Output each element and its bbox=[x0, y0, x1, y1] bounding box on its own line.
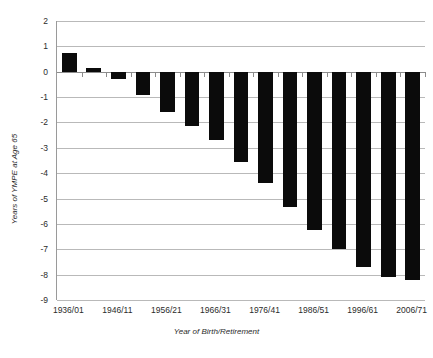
y-tick-label: -2 bbox=[40, 117, 48, 127]
x-tick-label: 1986/51 bbox=[298, 305, 329, 315]
bar bbox=[86, 68, 101, 72]
x-axis-title: Year of Birth/Retirement bbox=[0, 327, 433, 336]
x-axis-tick bbox=[302, 72, 303, 77]
bar bbox=[405, 72, 420, 280]
y-axis-title: Years of YMPE at Age 65 bbox=[10, 134, 19, 224]
x-axis-tick bbox=[376, 72, 377, 77]
bar bbox=[185, 72, 200, 127]
bar bbox=[62, 53, 77, 72]
bar bbox=[356, 72, 371, 267]
x-tick-label: 1956/21 bbox=[151, 305, 182, 315]
x-axis-tick bbox=[327, 72, 328, 77]
bar bbox=[381, 72, 396, 277]
gridline bbox=[57, 300, 425, 301]
bar bbox=[234, 72, 249, 162]
x-axis-tick bbox=[400, 72, 401, 77]
x-axis-tick bbox=[204, 72, 205, 77]
chart-figure: 210-1-2-3-4-5-6-7-8-9 Years of YMPE at A… bbox=[0, 0, 433, 358]
x-axis-tick bbox=[106, 72, 107, 77]
y-tick-label: 2 bbox=[43, 16, 48, 26]
y-tick-label: -3 bbox=[40, 143, 48, 153]
y-tick-label: 0 bbox=[43, 67, 48, 77]
gridline bbox=[57, 21, 425, 22]
chart-title-cropped bbox=[0, 0, 433, 8]
y-tick-label: -1 bbox=[40, 92, 48, 102]
x-axis-tick bbox=[155, 72, 156, 77]
x-axis-tick bbox=[278, 72, 279, 77]
x-tick-label: 1966/31 bbox=[200, 305, 231, 315]
x-axis-tick bbox=[351, 72, 352, 77]
x-tick-label: 1936/01 bbox=[53, 305, 84, 315]
y-tick-label: -8 bbox=[40, 270, 48, 280]
x-tick-label: 1976/41 bbox=[249, 305, 280, 315]
gridline bbox=[57, 275, 425, 276]
y-tick-label: 1 bbox=[43, 41, 48, 51]
y-tick-label: -5 bbox=[40, 194, 48, 204]
x-tick-label: 1946/11 bbox=[102, 305, 132, 315]
bar bbox=[209, 72, 224, 140]
plot-area bbox=[56, 21, 424, 300]
y-tick-label: -7 bbox=[40, 244, 48, 254]
bar bbox=[283, 72, 298, 208]
bar bbox=[160, 72, 175, 113]
y-tick-label: -4 bbox=[40, 168, 48, 178]
x-axis-tick bbox=[425, 72, 426, 77]
x-axis-tick bbox=[253, 72, 254, 77]
y-tick-label: -9 bbox=[40, 295, 48, 305]
x-axis-tick bbox=[180, 72, 181, 77]
y-tick-label: -6 bbox=[40, 219, 48, 229]
x-axis-tick bbox=[229, 72, 230, 77]
x-axis-tick bbox=[131, 72, 132, 77]
bar bbox=[258, 72, 273, 184]
gridline bbox=[57, 46, 425, 47]
x-tick-label: 2006/71 bbox=[396, 305, 427, 315]
x-tick-label: 1996/61 bbox=[347, 305, 378, 315]
bar bbox=[136, 72, 151, 95]
bar bbox=[307, 72, 322, 231]
bar bbox=[111, 72, 126, 80]
bar bbox=[332, 72, 347, 250]
x-axis-tick-labels: 1936/011946/111956/211966/311976/411986/… bbox=[0, 305, 433, 321]
x-axis-tick bbox=[82, 72, 83, 77]
